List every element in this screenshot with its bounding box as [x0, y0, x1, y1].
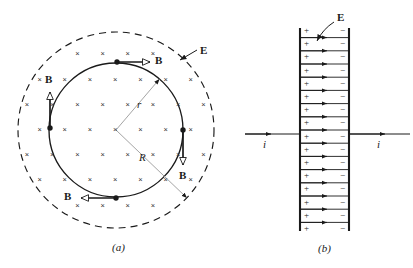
into-page-cross-icon: × — [126, 50, 130, 58]
into-page-cross-icon: × — [151, 101, 155, 109]
positive-charge-sign: + — [304, 184, 309, 193]
into-page-cross-icon: × — [113, 176, 117, 184]
into-page-cross-icon: × — [25, 101, 29, 109]
into-page-cross-icon: × — [100, 202, 104, 210]
into-page-cross-icon: × — [63, 176, 67, 184]
into-page-cross-icon: × — [138, 76, 142, 84]
positive-charge-sign: + — [304, 145, 309, 154]
panel-b-group — [245, 22, 410, 231]
panel-b-E-pointer — [317, 22, 334, 41]
into-page-cross-icon: × — [100, 50, 104, 58]
negative-charge-sign: − — [340, 184, 345, 193]
into-page-cross-icon: × — [50, 151, 54, 159]
positive-charge-sign: + — [304, 224, 309, 233]
into-page-cross-icon: × — [100, 151, 104, 159]
negative-charge-sign: − — [340, 145, 345, 154]
radius-R-label: R — [139, 152, 146, 163]
negative-charge-sign: − — [340, 39, 345, 48]
into-page-cross-icon: × — [37, 126, 41, 134]
into-page-cross-icon: × — [163, 76, 167, 84]
into-page-cross-icon: × — [151, 202, 155, 210]
into-page-cross-icon: × — [138, 176, 142, 184]
into-page-cross-icon: × — [50, 101, 54, 109]
into-page-cross-icon: × — [151, 151, 155, 159]
panel-a-caption: (a) — [112, 242, 125, 253]
into-page-cross-icon: × — [176, 101, 180, 109]
negative-charge-sign: − — [340, 158, 345, 167]
positive-charge-sign: + — [304, 171, 309, 180]
panel-b-caption: (b) — [318, 243, 331, 254]
positive-charge-sign: + — [304, 132, 309, 141]
b-label-top: B — [155, 55, 162, 66]
into-page-cross-icon: × — [100, 101, 104, 109]
into-page-cross-icon: × — [138, 126, 142, 134]
into-page-cross-icon: × — [75, 151, 79, 159]
negative-charge-sign: − — [340, 198, 345, 207]
negative-charge-sign: − — [340, 224, 345, 233]
panel-a-E-pointer — [180, 50, 197, 60]
negative-charge-sign: − — [340, 105, 345, 114]
positive-charge-sign: + — [304, 105, 309, 114]
into-page-cross-icon: × — [113, 126, 117, 134]
current-label-right: i — [377, 139, 380, 150]
physics-figure: ××××××××××××××××××××××××××××××××××××××××… — [0, 0, 413, 268]
negative-charge-sign: − — [340, 211, 345, 220]
positive-charge-sign: + — [304, 198, 309, 207]
positive-charge-sign: + — [304, 52, 309, 61]
panel-b-E-label: E — [337, 12, 344, 23]
b-label-right: B — [179, 170, 186, 181]
figure-canvas — [0, 0, 413, 268]
into-page-cross-icon: × — [189, 126, 193, 134]
positive-charge-sign: + — [304, 118, 309, 127]
b-label-bottom: B — [64, 191, 71, 202]
into-page-cross-icon: × — [25, 151, 29, 159]
into-page-cross-icon: × — [189, 176, 193, 184]
negative-charge-sign: − — [340, 52, 345, 61]
into-page-cross-icon: × — [176, 151, 180, 159]
into-page-cross-icon: × — [126, 151, 130, 159]
panel-a-E-label: E — [200, 45, 207, 56]
into-page-cross-icon: × — [88, 176, 92, 184]
positive-charge-sign: + — [304, 211, 309, 220]
positive-charge-sign: + — [304, 39, 309, 48]
into-page-cross-icon: × — [88, 126, 92, 134]
current-label-left: i — [263, 139, 266, 150]
into-page-cross-icon: × — [75, 50, 79, 58]
positive-charge-sign: + — [304, 26, 309, 35]
into-page-cross-icon: × — [189, 76, 193, 84]
into-page-cross-icon: × — [163, 176, 167, 184]
negative-charge-sign: − — [340, 132, 345, 141]
into-page-cross-icon: × — [163, 126, 167, 134]
positive-charge-sign: + — [304, 92, 309, 101]
positive-charge-sign: + — [304, 79, 309, 88]
radius-R-leader — [116, 130, 187, 198]
into-page-cross-icon: × — [88, 76, 92, 84]
into-page-cross-icon: × — [201, 101, 205, 109]
into-page-cross-icon: × — [63, 126, 67, 134]
negative-charge-sign: − — [340, 92, 345, 101]
negative-charge-sign: − — [340, 26, 345, 35]
into-page-cross-icon: × — [75, 101, 79, 109]
b-label-left: B — [45, 74, 52, 85]
negative-charge-sign: − — [340, 66, 345, 75]
into-page-cross-icon: × — [126, 202, 130, 210]
into-page-cross-icon: × — [113, 76, 117, 84]
positive-charge-sign: + — [304, 66, 309, 75]
into-page-cross-icon: × — [126, 101, 130, 109]
into-page-cross-icon: × — [75, 202, 79, 210]
into-page-cross-icon: × — [37, 176, 41, 184]
negative-charge-sign: − — [340, 79, 345, 88]
into-page-cross-icon: × — [37, 76, 41, 84]
into-page-cross-icon: × — [63, 76, 67, 84]
positive-charge-sign: + — [304, 158, 309, 167]
negative-charge-sign: − — [340, 118, 345, 127]
radius-r-label: r — [137, 99, 141, 110]
into-page-cross-icon: × — [201, 151, 205, 159]
negative-charge-sign: − — [340, 171, 345, 180]
